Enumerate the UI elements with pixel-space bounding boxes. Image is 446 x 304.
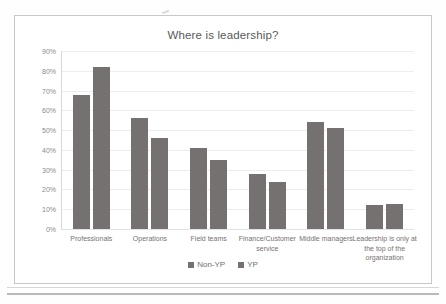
bar-group-bars (238, 51, 297, 229)
bar-group: Field teams (179, 51, 238, 229)
bar-non-yp[interactable] (307, 122, 324, 229)
square-swatch-icon (188, 262, 194, 268)
y-axis-tick-label: 30% (42, 166, 56, 173)
y-axis-tick-label: 10% (42, 206, 56, 213)
bar-non-yp[interactable] (131, 118, 148, 229)
page-root: Where is leadership? 90%80%70%60%50%40%3… (0, 0, 446, 304)
y-axis-tick-label: 60% (42, 107, 56, 114)
scan-artifact-mark (162, 10, 169, 14)
bar-group-bars (121, 51, 180, 229)
plot-area: 90%80%70%60%50%40%30%20%10%0%Professiona… (62, 51, 414, 229)
bar-group-bars (355, 51, 414, 229)
legend-item-label: Non-YP (197, 261, 225, 269)
y-axis-tick-label: 0% (46, 226, 56, 233)
y-axis-tick-label: 80% (42, 67, 56, 74)
bar-yp[interactable] (327, 128, 344, 229)
bar-yp[interactable] (386, 204, 403, 229)
legend-item[interactable]: Non-YP (188, 261, 225, 269)
x-axis-category-label: Leadership is only at the top of the org… (348, 234, 422, 263)
legend-item[interactable]: YP (238, 261, 258, 269)
bar-group-bars (62, 51, 121, 229)
bar-group: Professionals (62, 51, 121, 229)
bar-yp[interactable] (269, 182, 286, 229)
bar-non-yp[interactable] (190, 148, 207, 229)
bar-yp[interactable] (210, 160, 227, 229)
chart-container: Where is leadership? 90%80%70%60%50%40%3… (14, 15, 432, 284)
legend-item-label: YP (247, 261, 258, 269)
bar-group: Finance/Customer service (238, 51, 297, 229)
bar-group: Middle managers (297, 51, 356, 229)
bar-yp[interactable] (151, 138, 168, 229)
y-axis-tick-label: 90% (42, 48, 56, 55)
bar-non-yp[interactable] (73, 95, 90, 229)
y-axis-tick-label: 20% (42, 186, 56, 193)
y-axis-tick-label: 50% (42, 127, 56, 134)
y-axis-tick-label: 70% (42, 87, 56, 94)
bar-non-yp[interactable] (249, 174, 266, 229)
bar-group-bars (297, 51, 356, 229)
bar-group-bars (179, 51, 238, 229)
gridline-0 (62, 229, 414, 230)
bar-non-yp[interactable] (366, 205, 383, 229)
square-swatch-icon (238, 262, 244, 268)
bar-group: Leadership is only at the top of the org… (355, 51, 414, 229)
page-footer-rule-top (7, 287, 439, 288)
page-footer-rule-bottom (7, 293, 439, 295)
bar-group: Operations (121, 51, 180, 229)
y-axis-tick-label: 40% (42, 146, 56, 153)
chart-title: Where is leadership? (15, 29, 431, 41)
chart-legend: Non-YPYP (15, 261, 431, 269)
bar-yp[interactable] (93, 67, 110, 229)
